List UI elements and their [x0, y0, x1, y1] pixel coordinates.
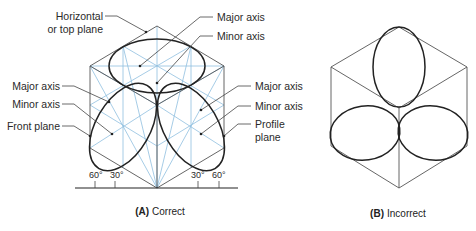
- angle-30-right: 30°: [191, 170, 205, 180]
- caption-a-text: Correct: [152, 206, 185, 217]
- right-circle-b: [395, 101, 472, 164]
- caption-b-letter: (B): [370, 208, 384, 219]
- caption-b-text: Incorrect: [387, 208, 426, 219]
- labels: Horizontal or top plane Major axis Minor…: [7, 10, 303, 143]
- angle-60-right: 60°: [212, 170, 226, 180]
- caption-b: (B)Incorrect: [370, 208, 426, 219]
- left-circle-b: [327, 101, 404, 164]
- angle-60-left: 60°: [89, 170, 103, 180]
- caption-a-letter: (A): [135, 206, 149, 217]
- label-top-plane: or top plane: [48, 23, 104, 35]
- label-front-plane: Front plane: [7, 120, 60, 132]
- label-left-major-axis: Major axis: [12, 80, 60, 92]
- label-profile: Profile: [255, 118, 285, 130]
- label-top-minor-axis: Minor axis: [217, 30, 265, 42]
- caption-a: (A)Correct: [135, 206, 185, 217]
- label-left-minor-axis: Minor axis: [12, 98, 60, 110]
- label-horizontal: Horizontal: [56, 10, 103, 22]
- figure-a-correct: 60° 30° 30° 60°: [7, 10, 303, 217]
- isometric-circles-diagram: 60° 30° 30° 60°: [0, 0, 476, 231]
- label-right-minor-axis: Minor axis: [255, 100, 303, 112]
- figure-b-incorrect: (B)Incorrect: [327, 27, 472, 219]
- label-profile-plane: plane: [255, 131, 281, 143]
- label-right-major-axis: Major axis: [255, 80, 303, 92]
- label-top-major-axis: Major axis: [217, 11, 265, 23]
- angle-30-left: 30°: [110, 170, 124, 180]
- top-circle-b: [373, 27, 425, 107]
